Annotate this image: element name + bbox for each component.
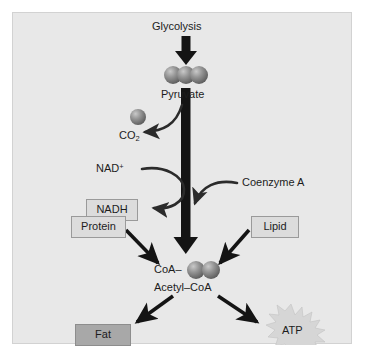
nad-plus-label: NAD+ — [96, 163, 124, 174]
atp-label: ATP — [282, 325, 303, 336]
nad-plus-label-text: NAD — [96, 162, 119, 174]
co2-subscript: 2 — [136, 134, 140, 143]
edge-acetyl-coa-to-atp — [218, 296, 257, 322]
edge-nad-plus-to-nadh — [142, 168, 184, 208]
lipid-box: Lipid — [251, 216, 299, 238]
pathway-figure-panel: Glycolysis Pyruvate CO2 NAD+ NADH Coenzy… — [12, 12, 352, 344]
edge-glycolysis-to-pyruvate — [175, 36, 197, 65]
edge-protein-to-acetyl-coa — [126, 230, 158, 263]
edge-lipid-to-acetyl-coa — [220, 230, 249, 263]
co2-label: CO2 — [119, 130, 140, 143]
acetyl-coa-spheres — [187, 261, 220, 279]
coa-label: CoA– — [154, 264, 182, 275]
co2-label-text: CO — [119, 129, 136, 141]
acetyl-coa-label: Acetyl–CoA — [154, 282, 211, 293]
pyruvate-label: Pyruvate — [161, 89, 204, 100]
edge-release-co2 — [145, 105, 182, 132]
pyruvate-spheres — [164, 66, 208, 84]
edge-coenzyme-a-in — [195, 182, 237, 203]
edge-pyruvate-to-acetyl-coa — [174, 88, 199, 254]
nad-plus-superscript: + — [119, 162, 123, 171]
co2-sphere — [130, 109, 146, 125]
fat-box: Fat — [75, 324, 131, 346]
coenzyme-a-label: Coenzyme A — [242, 177, 304, 188]
edge-acetyl-coa-to-fat — [137, 296, 173, 322]
glycolysis-label: Glycolysis — [152, 21, 202, 32]
protein-box: Protein — [71, 216, 126, 238]
